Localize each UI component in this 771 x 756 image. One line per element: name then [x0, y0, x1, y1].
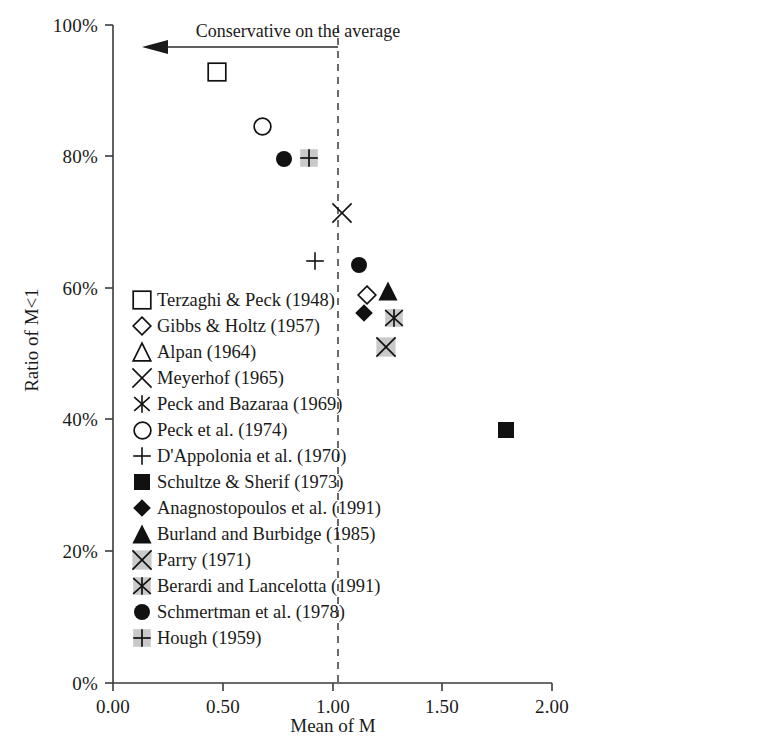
legend-item-label: D'Appolonia et al. (1970): [154, 447, 346, 466]
y-tick-label-20: 20%: [18, 542, 98, 561]
legend-item-label: Meyerhof (1965): [154, 369, 284, 388]
legend-item-label: Parry (1971): [154, 551, 251, 570]
legend-item-label: Peck et al. (1974): [154, 421, 288, 440]
conservative-arrow-icon: [0, 0, 771, 756]
chart-legend: Terzaghi & Peck (1948)Gibbs & Holtz (195…: [130, 287, 381, 651]
data-point-plus-box-gray: [298, 147, 320, 169]
y-tick-label-0: 0%: [18, 674, 98, 693]
legend-item-7[interactable]: Schultze & Sherif (1973): [130, 469, 381, 495]
diamond-open-icon: [130, 314, 154, 338]
legend-item-13[interactable]: Hough (1959): [130, 625, 381, 651]
y-axis-title: Ratio of M<1: [22, 260, 42, 420]
legend-item-3[interactable]: Meyerhof (1965): [130, 365, 381, 391]
triangle-open-icon: [130, 340, 154, 364]
legend-item-1[interactable]: Gibbs & Holtz (1957): [130, 313, 381, 339]
square-fill-icon: [130, 470, 154, 494]
data-point-square-fill: [496, 420, 516, 440]
legend-item-6[interactable]: D'Appolonia et al. (1970): [130, 443, 381, 469]
legend-item-label: Gibbs & Holtz (1957): [154, 317, 320, 336]
data-point-circle-fill: [349, 255, 369, 275]
y-tick-label-80: 80%: [18, 147, 98, 166]
x-thin-icon: [130, 366, 154, 390]
legend-item-label: Anagnostopoulos et al. (1991): [154, 499, 381, 518]
data-point-circle-fill: [274, 149, 294, 169]
plus-icon: [130, 444, 154, 468]
x-tick-label-150: 1.50: [397, 697, 487, 716]
star-box-gray-icon: [130, 574, 154, 598]
legend-item-8[interactable]: Anagnostopoulos et al. (1991): [130, 495, 381, 521]
legend-item-label: Schmertman et al. (1978): [154, 603, 345, 622]
legend-item-label: Alpan (1964): [154, 343, 256, 362]
square-open-icon: [130, 288, 154, 312]
legend-item-9[interactable]: Burland and Burbidge (1985): [130, 521, 381, 547]
triangle-fill-icon: [130, 522, 154, 546]
data-point-star-box-gray: [383, 307, 405, 329]
data-point-circle-open: [252, 116, 273, 137]
data-point-square-open: [206, 61, 228, 83]
legend-item-label: Hough (1959): [154, 629, 261, 648]
asterisk-icon: [130, 392, 154, 416]
x-axis-title: Mean of M: [223, 716, 443, 736]
data-point-plus: [304, 250, 326, 272]
diamond-fill-icon: [130, 496, 154, 520]
plus-box-gray-icon: [130, 626, 154, 650]
data-point-x-thin: [330, 201, 354, 225]
x-tick-label-050: 0.50: [178, 697, 268, 716]
circle-open-icon: [130, 418, 154, 442]
x-tick-label-000: 0.00: [68, 697, 158, 716]
x-tick-label-100: 1.00: [288, 697, 378, 716]
legend-item-label: Terzaghi & Peck (1948): [154, 291, 335, 310]
legend-item-10[interactable]: Parry (1971): [130, 547, 381, 573]
legend-item-label: Berardi and Lancelotta (1991): [154, 577, 380, 596]
legend-item-11[interactable]: Berardi and Lancelotta (1991): [130, 573, 381, 599]
legend-item-4[interactable]: Peck and Bazaraa (1969): [130, 391, 381, 417]
scatter-chart: Conservative on the average 100% 80% 60%…: [0, 0, 771, 756]
legend-item-label: Burland and Burbidge (1985): [154, 525, 375, 544]
legend-item-label: Schultze & Sherif (1973): [154, 473, 344, 492]
x-box-gray-icon: [130, 548, 154, 572]
legend-item-label: Peck and Bazaraa (1969): [154, 395, 342, 414]
legend-item-0[interactable]: Terzaghi & Peck (1948): [130, 287, 381, 313]
y-tick-label-100: 100%: [18, 16, 98, 35]
annotation-conservative: Conservative on the average: [148, 22, 448, 41]
legend-item-12[interactable]: Schmertman et al. (1978): [130, 599, 381, 625]
x-tick-label-200: 2.00: [507, 697, 597, 716]
legend-item-5[interactable]: Peck et al. (1974): [130, 417, 381, 443]
legend-item-2[interactable]: Alpan (1964): [130, 339, 381, 365]
circle-fill-icon: [130, 600, 154, 624]
